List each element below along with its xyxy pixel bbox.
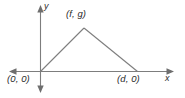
triangle-edge-apex-to-right-vertex [84,28,138,72]
y-axis-down-arrowhead [37,86,43,94]
vertex-label-right: (d, 0) [117,74,140,84]
coordinate-axes-triangle-figure: (f, g) (0, 0) (d, 0) x y [0,0,185,98]
vertex-label-apex: (f, g) [66,9,86,19]
y-axis-label: y [44,2,49,11]
triangle-edge-origin-to-apex [41,28,85,72]
x-axis-label: x [165,74,170,83]
y-axis-up-arrowhead [37,5,43,13]
vertex-label-origin: (0, 0) [7,74,30,84]
